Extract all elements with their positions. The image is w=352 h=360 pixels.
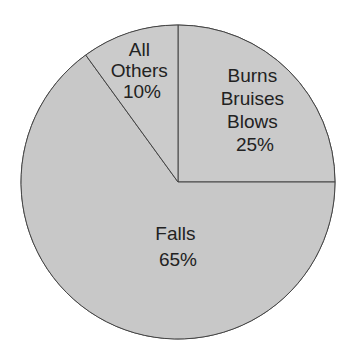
pie-chart: Burns Bruises Blows 25% Falls 65% All Ot…: [0, 0, 352, 360]
